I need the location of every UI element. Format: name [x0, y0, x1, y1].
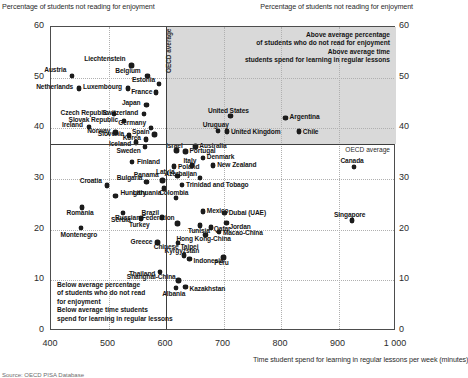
data-point-label: Czech Republic [61, 109, 109, 116]
y-axis-tick-label-right: 30 [399, 172, 425, 182]
data-point[interactable] [154, 90, 158, 94]
annotation-below-average: Below average percentage of students who… [57, 281, 173, 323]
data-point[interactable] [143, 145, 147, 149]
data-point-label: Shanghai-China [127, 273, 176, 280]
data-point-label: France [131, 88, 152, 95]
data-point[interactable] [130, 160, 134, 164]
data-point[interactable] [142, 112, 146, 116]
y-axis-tick-label: 20 [18, 223, 44, 233]
data-point[interactable] [157, 82, 161, 86]
data-point[interactable] [126, 86, 130, 90]
data-point[interactable] [180, 183, 184, 187]
data-point[interactable] [105, 183, 109, 187]
data-point-label: Denmark [207, 153, 235, 160]
source-footnote: Source: OECD PISA Database [2, 372, 84, 378]
data-point[interactable] [297, 129, 301, 133]
data-point-label: Estonia [132, 76, 155, 83]
data-point[interactable] [160, 178, 164, 182]
y-axis-tick-label-right: 20 [399, 223, 425, 233]
x-axis-tick-label: 1 000 [373, 338, 417, 348]
data-point[interactable] [149, 126, 153, 130]
data-point[interactable] [225, 129, 229, 133]
data-point-label: Dubai (UAE) [229, 209, 266, 216]
data-point[interactable] [144, 137, 148, 141]
data-point-label: Argentina [290, 113, 320, 120]
x-axis-tick-label: 600 [143, 338, 187, 348]
data-point-label: Sweden [116, 147, 140, 154]
x-axis-tick-label: 700 [201, 338, 245, 348]
gridline-vertical [281, 27, 282, 329]
data-point-label: Slovenia [98, 130, 124, 137]
oecd-average-vertical-label: OECD average [165, 29, 172, 73]
y-axis-tick-label: 0 [18, 324, 44, 334]
data-point[interactable] [217, 230, 221, 234]
data-point-label: Singapore [334, 211, 365, 218]
y-axis-tick-label: 10 [18, 273, 44, 283]
y-axis-tick-label-right: 50 [399, 71, 425, 81]
data-point[interactable] [187, 257, 191, 261]
data-point-label: Greece [131, 238, 153, 245]
data-point-label: Japan [122, 99, 141, 106]
data-point[interactable] [113, 194, 117, 198]
data-point[interactable] [144, 103, 148, 107]
oecd-average-horizontal-line [51, 144, 394, 145]
y-axis-tick-label: 40 [18, 121, 44, 131]
data-point-label: Kyrgyzstan [165, 247, 200, 254]
data-point[interactable] [352, 165, 356, 169]
data-point-label: Hong Kong-China [176, 235, 231, 242]
gridline-horizontal [51, 78, 394, 79]
data-point-label: Montenegro [61, 231, 98, 238]
data-point-label: Luxembourg [83, 83, 122, 90]
data-point-label: Croatia [80, 177, 102, 184]
data-point[interactable] [224, 221, 228, 225]
y-axis-title-left: Percentage of students not reading for e… [2, 2, 155, 11]
data-point-label: Kazakhstan [190, 285, 226, 292]
gridline-vertical [339, 27, 340, 329]
data-point-label: Belgium [115, 67, 140, 74]
x-axis-tick-label: 900 [316, 338, 360, 348]
data-point-label: Austria [44, 66, 66, 73]
data-point-label: Colombia [159, 189, 188, 196]
y-axis-tick-label-right: 40 [399, 121, 425, 131]
data-point[interactable] [144, 180, 148, 184]
data-point-label: Hungary [120, 189, 146, 196]
y-axis-tick-label: 60 [18, 20, 44, 30]
data-point-label: United States [208, 107, 249, 114]
data-point-label: Azerbaijan [165, 170, 197, 177]
data-point[interactable] [175, 221, 179, 225]
data-point[interactable] [201, 156, 205, 160]
y-axis-tick-label-right: 0 [399, 324, 425, 334]
data-point-label: Chile [303, 128, 319, 135]
data-point-label: Bulgaria [117, 174, 143, 181]
oecd-average-horizontal-label: OECD average [345, 146, 390, 153]
data-point-label: Canada [340, 157, 363, 164]
data-point[interactable] [209, 225, 213, 229]
data-point[interactable] [211, 163, 215, 167]
x-axis-tick-label: 400 [28, 338, 72, 348]
data-point[interactable] [77, 86, 81, 90]
x-axis-tick-label: 500 [86, 338, 130, 348]
data-point-label: United Kingdom [231, 128, 281, 135]
data-point[interactable] [350, 218, 354, 222]
data-point[interactable] [183, 285, 187, 289]
plot-area: AustriaNetherlandsLiechtensteinBelgiumLu… [50, 26, 395, 330]
data-point-label: Liechtenstein [84, 55, 125, 62]
y-axis-tick-label: 50 [18, 71, 44, 81]
data-point[interactable] [228, 114, 232, 118]
data-point-label: Trinidad and Tobago [186, 181, 248, 188]
data-point-label: Switzerland [103, 109, 139, 116]
data-point-label: Turkey [129, 221, 150, 228]
data-point[interactable] [152, 132, 156, 136]
data-point[interactable] [283, 116, 287, 120]
x-axis-title: Time student spend for learning in regul… [253, 355, 413, 365]
data-point[interactable] [201, 209, 205, 213]
data-point-label: New Zealand [217, 161, 256, 168]
data-point-label: Finland [137, 158, 160, 165]
data-point[interactable] [216, 129, 220, 133]
data-point[interactable] [222, 211, 226, 215]
data-point[interactable] [176, 278, 180, 282]
y-axis-tick-label-right: 60 [399, 20, 425, 30]
data-point-label: Germany [118, 119, 146, 126]
data-point[interactable] [183, 149, 187, 153]
